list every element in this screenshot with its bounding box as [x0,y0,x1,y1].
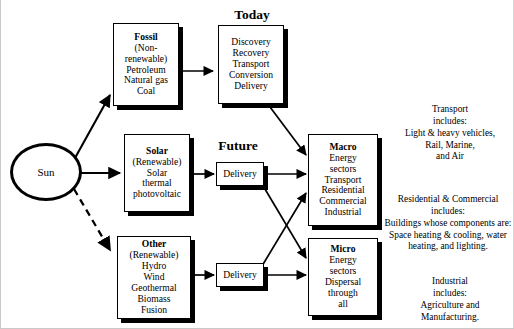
source-box-other-line-5: Fusion [141,305,167,316]
process-future-delivery-label: Delivery [223,169,257,180]
source-box-solar-line-0: (Renewable) [132,157,181,168]
note-industrial-line-1: includes: [386,288,514,300]
endpoint-box-macro[interactable]: Macro Energy sectors Transport Residenti… [308,134,378,226]
source-box-solar-line-3: photovoltaic [133,189,181,200]
process-box-other-delivery[interactable]: Delivery [216,263,264,287]
endpoint-macro-line-5: Industrial [325,207,362,218]
source-box-solar[interactable]: Solar (Renewable) Solar thermal photovol… [124,134,190,212]
page-frame-left [0,0,1,329]
process-box-future-delivery[interactable]: Delivery [216,162,264,186]
note-resicomm-line-0: Residential & Commercial [382,194,514,206]
endpoint-macro-line-0: Energy [329,153,357,164]
column-header-today: Today [203,7,301,23]
column-header-future: Future [190,138,286,154]
source-box-other[interactable]: Other (Renewable) Hydro Wind Geothermal … [117,236,191,319]
note-resicomm-line-1: includes: [382,206,514,218]
process-box-today-chain[interactable]: Discovery Recovery Transport Conversion … [218,25,284,104]
note-transport-line-2: Light & heavy vehicles, [386,128,514,140]
source-box-solar-title: Solar [146,146,168,157]
note-transport: Transport includes: Light & heavy vehicl… [386,104,514,163]
note-industrial-line-3: Manufacturing. [386,312,514,324]
note-transport-line-1: includes: [386,116,514,128]
sun-label: Sun [37,166,54,178]
note-resicomm-line-2: Buildings whose components are: [382,218,514,230]
source-box-fossil-line-4: Coal [137,86,155,97]
note-transport-line-4: and Air [386,151,514,163]
source-box-fossil[interactable]: Fossil (Non- renewable) Petroleum Natura… [113,23,179,106]
arrow-future-delivery-to-micro [262,184,306,258]
note-industrial: Industrial includes: Agriculture and Man… [386,276,514,323]
note-transport-line-3: Rail, Marine, [386,140,514,152]
arrow-sun-to-other [74,189,110,250]
arrow-other-delivery-to-macro [262,193,306,266]
endpoint-box-micro[interactable]: Micro Energy sectors Dispersal through a… [308,238,378,316]
note-residential-commercial: Residential & Commercial includes: Build… [382,194,514,253]
source-box-fossil-line-0: (Non- [135,43,158,54]
note-industrial-line-0: Industrial [386,276,514,288]
process-today-line-4: Delivery [234,81,268,92]
note-resicomm-line-3: Space heating & cooling, water [382,230,514,242]
note-resicomm-line-4: heating, and lighting. [382,241,514,253]
endpoint-macro-line-1: sectors [330,164,357,175]
process-other-delivery-label: Delivery [223,270,257,281]
arrow-sun-to-fossil [75,95,110,158]
note-industrial-line-2: Agriculture and [386,300,514,312]
source-box-fossil-line-1: renewable) [125,54,168,65]
note-transport-line-0: Transport [386,104,514,116]
diagram-canvas: Today Future Sun Fossil (Non- renewable)… [0,0,514,329]
sun-node[interactable]: Sun [10,143,82,201]
endpoint-micro-line-4: all [338,299,348,310]
